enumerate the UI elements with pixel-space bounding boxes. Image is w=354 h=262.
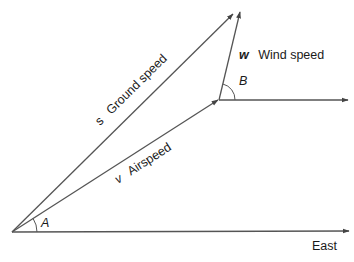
ground-speed-label: s Ground speed [92,51,169,128]
angle-a-label: A [40,216,49,230]
east-axis-arrow [12,231,349,232]
angle-b-label: B [239,74,247,88]
angle-b-arc [223,84,235,100]
vector-diagram: s Ground speed v Airspeed w Wind speed B… [0,0,354,262]
airspeed-label: v Airspeed [112,140,174,187]
east-label: East [312,239,338,253]
angle-a-arc [33,219,37,233]
wind-speed-label: w Wind speed [239,48,324,62]
ground-speed-vector [12,14,233,232]
airspeed-vector [12,100,218,232]
